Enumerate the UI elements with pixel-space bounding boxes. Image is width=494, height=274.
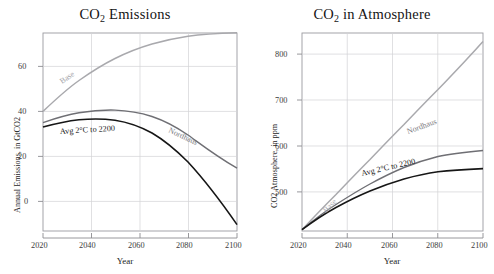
x-tick-label: 2020 — [290, 241, 307, 250]
y-axis-label: CO2 Atmosphere, in ppm — [270, 124, 279, 208]
x-tick-label: 2040 — [79, 241, 96, 250]
y-tick-label: 800 — [275, 50, 287, 59]
y-tick-label: 0 — [24, 197, 28, 206]
plot-area-emissions: Base Nordhaus Avg 2°C to 2200 — [0, 0, 250, 274]
x-tick-label: 2060 — [381, 241, 398, 250]
y-tick-label: 60 — [18, 62, 26, 71]
x-axis — [302, 233, 483, 238]
x-axis-label: Year — [384, 256, 401, 266]
x-tick-label: 2040 — [335, 241, 352, 250]
x-tick-label: 2060 — [128, 241, 145, 250]
x-tick-label: 2020 — [31, 241, 48, 250]
x-tick-label: 2080 — [426, 241, 443, 250]
y-tick-label: 700 — [275, 96, 287, 105]
y-axis-ticks — [297, 54, 302, 192]
x-tick-label: 2100 — [471, 241, 488, 250]
y-axis-label: Annual Emissions, in GtCO2 — [13, 117, 22, 213]
y-tick-label: 40 — [18, 107, 26, 116]
x-axis — [43, 233, 237, 238]
x-tick-label: 2080 — [176, 241, 193, 250]
figure-container: CO2 Emissions — [0, 0, 494, 274]
x-axis-label: Year — [117, 256, 134, 266]
chart-panel-co2-atmosphere: CO2 in Atmosphere — [250, 0, 494, 274]
plot-area-atmosphere: Base Nordhaus Avg 2°C to 2200 — [250, 0, 494, 274]
chart-panel-co2-emissions: CO2 Emissions — [0, 0, 250, 274]
x-tick-label: 2100 — [225, 241, 242, 250]
y-axis-ticks — [38, 66, 43, 201]
